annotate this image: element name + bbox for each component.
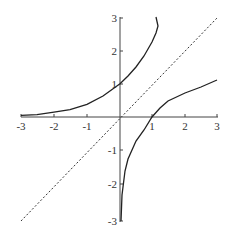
exp-curve — [21, 17, 158, 115]
y-tick-label: -3 — [108, 215, 118, 227]
y-tick-label: 3 — [112, 12, 118, 24]
x-tick-label: -2 — [49, 120, 58, 132]
x-tick-label: -1 — [82, 120, 91, 132]
x-tick-label: 2 — [182, 120, 188, 132]
x-axis: -3 -2 -1 1 2 3 — [16, 114, 220, 132]
x-tick-label: 3 — [214, 120, 220, 132]
y-tick-label: 2 — [112, 45, 118, 57]
chart: -3 -2 -1 1 2 3 3 2 1 -1 -2 -3 — [0, 0, 228, 234]
x-tick-label: 1 — [149, 120, 155, 132]
y-axis: 3 2 1 -1 -2 -3 — [108, 12, 123, 227]
y-tick-label: -1 — [108, 144, 117, 156]
log-curve — [121, 80, 217, 221]
x-tick-label: -3 — [16, 120, 26, 132]
y-tick-label: -2 — [108, 178, 117, 190]
